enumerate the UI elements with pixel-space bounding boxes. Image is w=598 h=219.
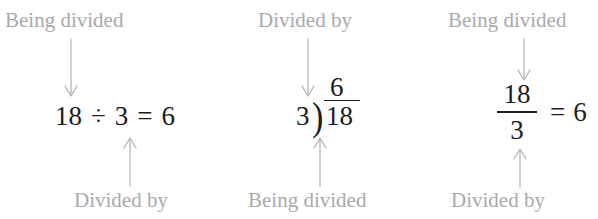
panel-long-division-bottom-label: Being divided <box>248 190 366 211</box>
panel-long-division-top-arrow-down-icon <box>293 38 323 100</box>
long-division-quotient: 6 <box>330 74 344 101</box>
obelus-quotient: 6 <box>162 101 176 131</box>
fraction-quotient: 6 <box>573 97 587 127</box>
fraction-numerator: 18 <box>504 80 531 108</box>
obelus-divisor: 3 <box>115 101 129 131</box>
fraction-bar <box>497 111 537 113</box>
long-division-dividend: 18 <box>326 103 353 130</box>
panel-fraction-top-arrow-down-icon <box>509 38 539 84</box>
fraction-tail: =6 <box>550 99 587 126</box>
obelus-equals-sign: = <box>137 101 152 131</box>
fraction-stack: 18 3 <box>497 80 537 144</box>
panel-obelus-top-arrow-down-icon <box>56 38 86 100</box>
panel-fraction-top-label: Being divided <box>448 10 566 31</box>
figure-canvas: Being divided 18÷3=6 Divided by Divided … <box>0 0 598 219</box>
obelus-operator-icon: ÷ <box>91 101 106 131</box>
panel-fraction-bottom-label: Divided by <box>451 190 545 211</box>
long-division-bracket-icon: ) <box>312 98 323 137</box>
panel-fraction-expression: 18 3 =6 <box>497 80 587 144</box>
obelus-dividend: 18 <box>55 101 82 131</box>
fraction-denominator: 3 <box>510 116 524 144</box>
long-division-divisor: 3 <box>296 103 310 130</box>
panel-fraction-bottom-arrow-up-icon <box>505 148 535 188</box>
fraction-equals-sign: = <box>550 97 565 127</box>
panel-obelus-expression: 18÷3=6 <box>55 103 175 130</box>
panel-obelus-bottom-arrow-up-icon <box>115 137 145 187</box>
panel-obelus-bottom-label: Divided by <box>74 190 168 211</box>
panel-long-division-bottom-arrow-up-icon <box>305 137 335 187</box>
panel-obelus-top-label: Being divided <box>5 10 123 31</box>
panel-long-division-top-label: Divided by <box>258 10 352 31</box>
